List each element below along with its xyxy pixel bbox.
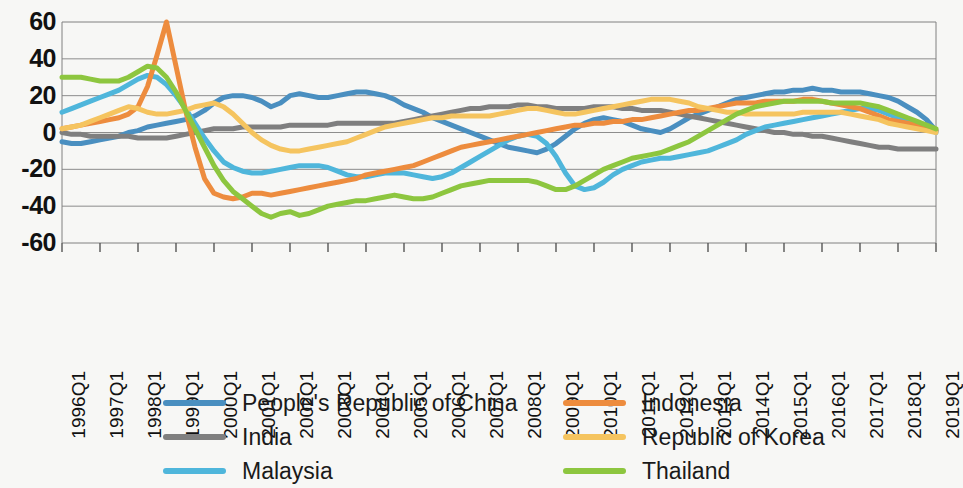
legend-item-label: Thailand — [642, 460, 730, 483]
line-swatch-icon — [563, 400, 626, 406]
legend-item[interactable]: Thailand — [563, 454, 825, 488]
y-axis-tick-label: -20 — [2, 156, 56, 181]
legend-item[interactable]: Indonesia — [563, 386, 825, 420]
legend-column: IndonesiaRepublic of KoreaThailand — [563, 386, 825, 488]
y-axis: 6040200-20-40-60 — [0, 0, 56, 270]
legend-item-label: Indonesia — [642, 392, 742, 415]
legend-item-label: Malaysia — [242, 460, 333, 483]
legend-item-label: India — [242, 426, 292, 449]
y-axis-tick-label: -40 — [2, 193, 56, 218]
legend-item-label: People's Republic of China — [242, 392, 517, 415]
line-swatch-icon — [163, 400, 226, 406]
legend-item[interactable]: India — [163, 420, 517, 454]
line-swatch-icon — [563, 468, 626, 474]
line-swatch-icon — [563, 434, 626, 440]
legend-column: People's Republic of ChinaIndiaMalaysia — [163, 386, 517, 488]
chart-legend: People's Republic of ChinaIndiaMalaysiaI… — [0, 386, 956, 488]
x-axis: 1996Q11997Q11998Q11999Q12000Q12001Q12002… — [0, 266, 956, 376]
legend-item-label: Republic of Korea — [642, 426, 825, 449]
legend-item[interactable]: Republic of Korea — [563, 420, 825, 454]
x-axis-tick-marks — [62, 243, 936, 252]
legend-item[interactable]: Malaysia — [163, 454, 517, 488]
series-lines — [62, 22, 936, 217]
legend-item[interactable]: People's Republic of China — [163, 386, 517, 420]
y-axis-tick-label: 20 — [2, 83, 56, 108]
line-swatch-icon — [163, 434, 226, 440]
y-axis-tick-label: -60 — [2, 230, 56, 255]
y-axis-tick-label: 0 — [2, 120, 56, 145]
y-axis-tick-label: 60 — [2, 9, 56, 34]
y-axis-tick-label: 40 — [2, 46, 56, 71]
line-swatch-icon — [163, 468, 226, 474]
